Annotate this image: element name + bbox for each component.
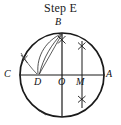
point-label-D: D <box>34 77 41 87</box>
point-label-M: M <box>76 77 84 87</box>
point-label-A: A <box>106 69 112 79</box>
chord-B-to-D <box>39 34 62 75</box>
point-label-B: B <box>55 17 61 27</box>
point-label-O: O <box>58 77 65 87</box>
point-label-C: C <box>4 69 11 79</box>
construction-figure: Step E <box>0 0 121 125</box>
construction-arc-left <box>21 53 37 74</box>
